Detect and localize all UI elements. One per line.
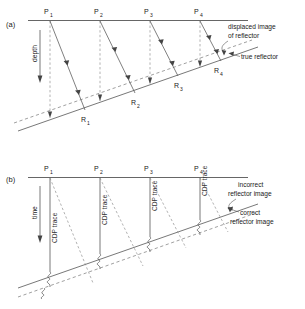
displaced-image-leader-arrow <box>222 50 227 56</box>
point-r2-sub: 2 <box>137 103 140 109</box>
cdp-wiggle-3 <box>147 237 150 252</box>
ray-arrow-4b <box>214 49 220 54</box>
point-p3b-label: P <box>144 165 149 172</box>
true-reflector-leader-arrow <box>229 52 235 56</box>
ray-arrow-4a <box>206 35 212 40</box>
panel-b: (b) time CDP trace P 1 CDP trace <box>6 165 274 299</box>
vertical-arrow-3 <box>148 77 152 84</box>
cdp-trace-label-3: CDP trace <box>151 180 158 211</box>
annotation-true-reflector: true reflector <box>229 52 279 60</box>
point-p2b-label: P <box>94 165 99 172</box>
point-r3-label: R <box>174 82 179 89</box>
point-p4-label: P <box>194 8 199 15</box>
true-reflector-line <box>18 47 258 131</box>
point-r2-label: R <box>131 99 136 106</box>
displaced-image-line1: displaced image <box>228 23 276 31</box>
point-p4-sub: 4 <box>200 12 203 18</box>
point-p1-sub: 1 <box>50 12 53 18</box>
point-p2-label: P <box>94 8 99 15</box>
ray-line-2 <box>100 21 135 93</box>
ray-line-4 <box>200 21 221 61</box>
depth-arrow-head <box>38 76 43 84</box>
point-p3b-sub: 3 <box>150 169 153 175</box>
time-arrow-head <box>38 236 43 244</box>
true-reflector-line1: true reflector <box>241 53 279 60</box>
depth-axis: depth <box>31 30 42 83</box>
point-p4b-sub: 4 <box>200 169 203 175</box>
correct-image-line2: reflector image <box>230 218 274 226</box>
annotation-correct-image: correct reflector image <box>228 207 274 227</box>
cdp-trace-label-1: CDP trace <box>51 212 58 243</box>
point-r1-label: R <box>81 116 86 123</box>
point-p3-label: P <box>144 8 149 15</box>
vertical-arrow-1 <box>48 111 52 118</box>
time-axis: time <box>31 186 42 243</box>
displaced-image-line2: of reflector <box>228 32 260 39</box>
cdp-wiggle-2 <box>97 254 100 269</box>
point-p2b-sub: 2 <box>100 169 103 175</box>
point-p3-sub: 3 <box>150 12 153 18</box>
point-r4-sub: 4 <box>220 71 223 77</box>
panel-a-id: (a) <box>6 20 16 29</box>
ray-arrow-2b <box>125 75 131 80</box>
point-r1-sub: 1 <box>87 120 90 126</box>
point-p1b-label: P <box>44 165 49 172</box>
point-p1b-sub: 1 <box>50 169 53 175</box>
ray-group-4: P 4 R 4 <box>194 8 223 77</box>
point-p1-label: P <box>44 8 49 15</box>
incorrect-image-line2: reflector image <box>228 190 272 198</box>
cdp-trace-label-2: CDP trace <box>101 194 108 225</box>
point-p2-sub: 2 <box>100 12 103 18</box>
vertical-arrow-4 <box>198 60 202 67</box>
ray-group-2: P 2 R 2 <box>94 8 140 109</box>
panel-b-id: (b) <box>6 175 16 184</box>
point-r3-sub: 3 <box>180 86 183 92</box>
seismic-migration-figure: (a) depth P 1 R 1 <box>0 0 305 309</box>
annotation-incorrect-image: incorrect reflector image <box>228 181 272 213</box>
reflector-tail-wiggle-left <box>41 288 44 299</box>
depth-axis-label: depth <box>31 45 39 62</box>
time-axis-label: time <box>31 206 38 219</box>
correct-image-line1: correct <box>240 209 260 216</box>
cdp-trace-group-2: CDP trace P 2 <box>94 165 143 269</box>
cdp-trace-group-1: CDP trace P 1 <box>44 165 93 287</box>
cdp-wiggle-1 <box>47 272 50 287</box>
ray-line-3 <box>150 21 178 76</box>
panel-a: (a) depth P 1 R 1 <box>6 8 279 131</box>
ray-arrow-1a <box>64 60 70 65</box>
vertical-arrow-2 <box>98 94 102 101</box>
point-p4b-label: P <box>194 165 199 172</box>
ray-arrow-1b <box>75 90 81 95</box>
figure-canvas: (a) depth P 1 R 1 <box>0 0 305 309</box>
ray-arrow-3b <box>169 61 175 66</box>
ray-arrow-3a <box>158 39 164 44</box>
point-r4-label: R <box>214 67 219 74</box>
incorrect-image-line1: incorrect <box>238 181 263 188</box>
